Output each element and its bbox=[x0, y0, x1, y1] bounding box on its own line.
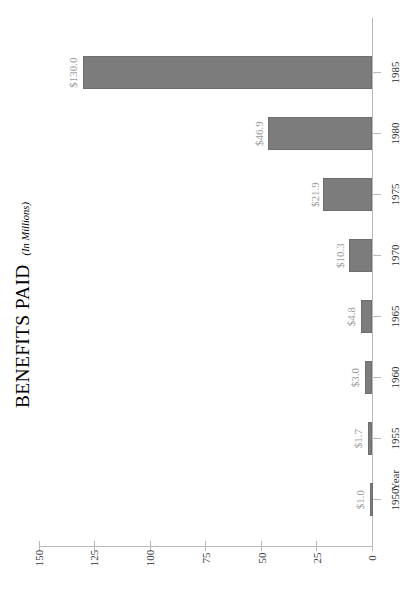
value-tick-25 bbox=[316, 541, 317, 551]
value-tick-0 bbox=[372, 541, 373, 551]
value-axis-label-150: 150 bbox=[19, 552, 59, 564]
data-label-1980: $46.9 bbox=[232, 117, 286, 150]
value-axis-label-125: 125 bbox=[74, 552, 114, 564]
data-label-1965: $4.8 bbox=[325, 300, 379, 333]
value-axis-line bbox=[39, 546, 373, 547]
plot-area: 150 125 100 75 50 25 0 $130.0 bbox=[0, 0, 415, 610]
data-label-1975: $21.9 bbox=[288, 178, 342, 211]
value-axis-label-0: 0 bbox=[352, 552, 392, 564]
value-axis-label-50: 50 bbox=[241, 552, 281, 564]
category-axis-title: Year bbox=[378, 474, 412, 486]
benefits-paid-bar-chart: BENEFITS PAID (In Millions) 150 125 100 … bbox=[0, 0, 415, 610]
category-label-1955: 1955 bbox=[378, 422, 412, 455]
data-label-1960: $3.0 bbox=[329, 361, 383, 394]
value-axis-label-75: 75 bbox=[185, 552, 225, 564]
category-label-1960: 1960 bbox=[378, 361, 412, 394]
bar-1985[interactable] bbox=[83, 56, 372, 89]
category-label-1980: 1980 bbox=[378, 117, 412, 150]
category-label-1985: 1985 bbox=[378, 56, 412, 89]
category-label-1970: 1970 bbox=[378, 239, 412, 272]
category-label-1975: 1975 bbox=[378, 178, 412, 211]
category-label-1965: 1965 bbox=[378, 300, 412, 333]
value-axis-label-100: 100 bbox=[130, 552, 170, 564]
category-axis-line bbox=[372, 18, 373, 546]
value-tick-50 bbox=[261, 541, 262, 551]
value-axis-label-25: 25 bbox=[296, 552, 336, 564]
data-label-1970: $10.3 bbox=[313, 239, 367, 272]
value-tick-75 bbox=[205, 541, 206, 551]
data-label-1985: $130.0 bbox=[46, 56, 100, 89]
